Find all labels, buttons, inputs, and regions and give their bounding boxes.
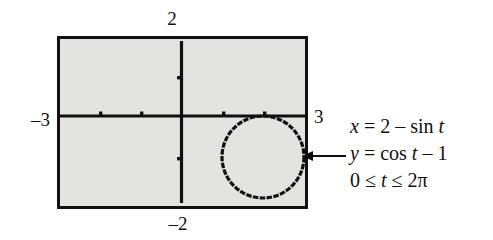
equation-list: x = 2 – sin t y = cos t – 1 0 ≤ t ≤ 2π bbox=[350, 113, 493, 194]
x-equation: x = 2 – sin t bbox=[350, 113, 493, 140]
axis-label-top: 2 bbox=[167, 9, 177, 28]
parametric-plot-figure: 2 –2 –3 3 x = 2 – sin t y = cos t – 1 0 … bbox=[0, 0, 493, 240]
axis-label-right: 3 bbox=[314, 107, 324, 126]
y-axis bbox=[177, 41, 182, 203]
parametric-curve bbox=[222, 116, 304, 198]
curve-callout-arrow bbox=[300, 145, 348, 167]
plot-canvas bbox=[57, 36, 308, 209]
y-equation: y = cos t – 1 bbox=[350, 140, 493, 167]
axis-label-left: –3 bbox=[31, 110, 50, 129]
t-range-equation: 0 ≤ t ≤ 2π bbox=[350, 167, 493, 194]
axis-label-bottom: –2 bbox=[169, 214, 188, 233]
